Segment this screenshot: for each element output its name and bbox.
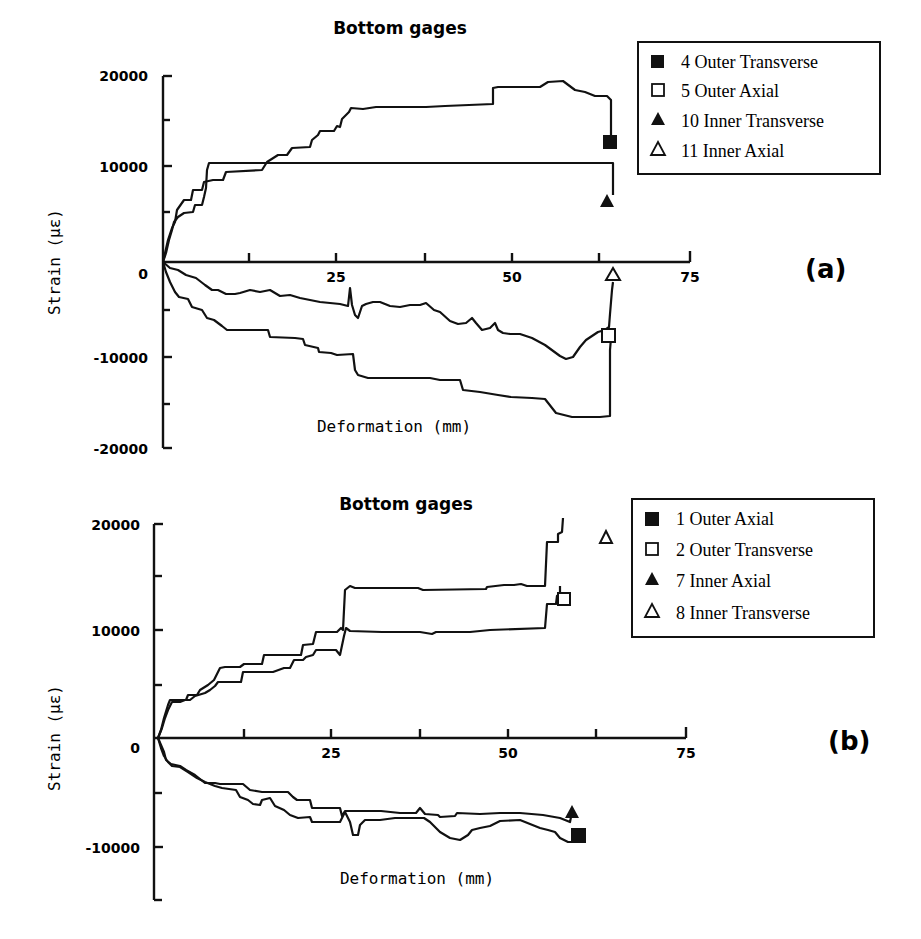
marker-filled-triangle-7: [565, 805, 579, 818]
series-4-outer-transverse: [163, 81, 611, 262]
panel-b-ytick-neg10000: -10000: [85, 840, 140, 856]
legend-open-square-icon: [652, 84, 664, 96]
legend-open-square-icon: [646, 543, 658, 555]
legend-item: 5 Outer Axial: [681, 81, 779, 101]
series-5-outer-axial: [163, 262, 611, 417]
panel-b-curves: [158, 518, 578, 842]
panel-a-y-label: Strain (με): [45, 209, 64, 315]
series-2-outer-transverse: [158, 586, 560, 738]
panel-a-xtick-25: 25: [326, 269, 345, 285]
panel-a-xtick-50: 50: [502, 269, 522, 285]
legend-item: 10 Inner Transverse: [681, 111, 824, 131]
panel-a-ytick-neg20000: -20000: [93, 441, 148, 457]
legend-item: 2 Outer Transverse: [676, 540, 813, 560]
panel-a-xtick-75: 75: [680, 269, 699, 285]
panel-b-legend: 1 Outer Axial 2 Outer Transverse 7 Inner…: [632, 499, 874, 637]
panel-b-x-label: Deformation (mm): [340, 869, 494, 888]
marker-filled-square-1: [571, 828, 586, 843]
panel-a-label: (a): [805, 254, 846, 284]
panel-b-ytick-20000: 20000: [91, 517, 140, 533]
legend-item: 8 Inner Transverse: [676, 603, 810, 623]
panel-a-curves: [163, 81, 613, 417]
panel-a: Bottom gages 20000 10000 0 -10000: [45, 18, 880, 457]
panel-b-y-label: Strain (με): [45, 685, 64, 791]
marker-open-triangle-11: [606, 268, 620, 280]
legend-filled-square-icon: [651, 55, 664, 68]
panel-a-ytick-neg10000: -10000: [93, 350, 148, 366]
panel-b-xtick-50: 50: [498, 745, 518, 761]
legend-item: 11 Inner Axial: [681, 141, 784, 161]
panel-b-axes: [154, 524, 686, 900]
panel-a-title: Bottom gages: [333, 18, 467, 38]
series-11-inner-axial: [163, 262, 613, 359]
panel-b: Bottom gages 20000 10000 0 -10000 25 50 …: [45, 494, 874, 900]
panel-b-label: (b): [828, 726, 870, 756]
figure: Bottom gages 20000 10000 0 -10000: [0, 0, 921, 939]
panel-b-ytick-10000: 10000: [91, 623, 140, 639]
legend-item: 1 Outer Axial: [676, 509, 774, 529]
panel-b-xtick-75: 75: [676, 745, 695, 761]
marker-open-triangle-8: [600, 531, 612, 543]
panel-b-xtick-25: 25: [321, 745, 340, 761]
panel-a-legend: 4 Outer Transverse 5 Outer Axial 10 Inne…: [638, 42, 880, 174]
marker-open-square-5: [602, 329, 615, 342]
marker-open-square-2: [558, 593, 570, 605]
panel-a-ytick-0: 0: [138, 266, 148, 282]
panel-a-ytick-10000: 10000: [99, 159, 148, 175]
legend-item: 7 Inner Axial: [676, 571, 771, 591]
series-8-inner-transverse: [158, 518, 563, 738]
series-10-inner-transverse: [163, 163, 613, 262]
panel-a-ytick-20000: 20000: [99, 68, 148, 84]
panel-b-ytick-0: 0: [130, 740, 140, 756]
marker-filled-triangle-10: [600, 194, 614, 207]
legend-item: 4 Outer Transverse: [681, 52, 818, 72]
marker-filled-square-4: [603, 135, 617, 149]
panel-a-x-label: Deformation (mm): [317, 417, 471, 436]
panel-b-title: Bottom gages: [339, 494, 473, 514]
legend-filled-square-icon: [645, 512, 659, 526]
